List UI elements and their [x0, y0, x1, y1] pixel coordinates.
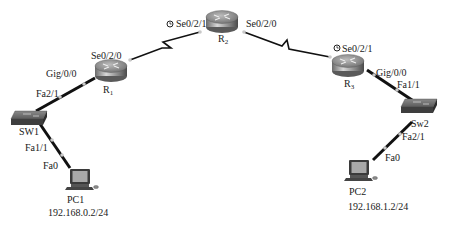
- sw1-fa21-label: Fa2/1: [36, 88, 59, 99]
- r3-se021-label: Se0/2/1: [342, 43, 373, 54]
- sw1-name: SW1: [19, 126, 39, 137]
- r2-name-text: R: [218, 33, 225, 44]
- network-diagram: Se0/2/0 Gig/0/0 R1 Fa2/1 SW1 Fa1/1 Fa0 P…: [0, 0, 454, 226]
- sw2-name: Sw2: [411, 118, 429, 129]
- r3-subscript: 3: [351, 83, 355, 91]
- r1-se-label: Se0/2/0: [91, 50, 122, 61]
- pc2-ip: 192.168.1.2/24: [348, 201, 408, 212]
- switch-sw2[interactable]: [401, 99, 437, 113]
- r3-name: R3: [344, 78, 354, 93]
- r3-name-text: R: [344, 78, 351, 89]
- pc2-fa0-label: Fa0: [385, 152, 400, 163]
- r2-subscript: 2: [225, 38, 229, 46]
- r1-name: R1: [103, 84, 113, 99]
- sw2-fa21-label: Fa2/1: [402, 131, 425, 142]
- pc1-name: PC1: [67, 194, 84, 205]
- pc1-fa0-label: Fa0: [43, 160, 58, 171]
- sw2-fa11-label: Fa1/1: [397, 79, 420, 90]
- r2-se021-label: Se0/2/1: [176, 18, 207, 29]
- switch-sw1[interactable]: [11, 111, 47, 125]
- link-r2-r3-serial: [242, 30, 332, 59]
- link-r1-r2-serial: [128, 30, 202, 62]
- pc-pc1[interactable]: [65, 169, 99, 190]
- r1-gig-label: Gig/0/0: [46, 68, 77, 79]
- r1-subscript: 1: [110, 89, 114, 97]
- r2-name: R2: [218, 33, 228, 48]
- router-r3[interactable]: [332, 55, 364, 78]
- router-r2[interactable]: [206, 11, 238, 34]
- r3-gig-label: Gig/0/0: [376, 67, 407, 78]
- r2-se020-label: Se0/2/0: [246, 18, 277, 29]
- r1-name-text: R: [103, 84, 110, 95]
- clock-icon: [334, 45, 340, 51]
- sw1-fa11-label: Fa1/1: [25, 142, 48, 153]
- pc1-ip: 192.168.0.2/24: [48, 207, 108, 218]
- pc-pc2[interactable]: [344, 160, 378, 181]
- pc2-name: PC2: [349, 186, 366, 197]
- router-r1[interactable]: [95, 60, 127, 83]
- clock-icon: [167, 21, 173, 27]
